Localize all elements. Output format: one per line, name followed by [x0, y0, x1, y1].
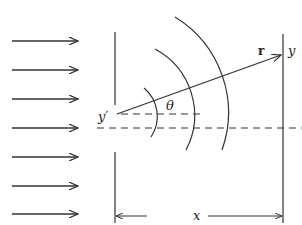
distance-x-label: x: [193, 208, 201, 223]
wavefront-arcs: [144, 17, 228, 150]
wavefront-arc: [144, 88, 157, 137]
observation-point-label: y: [287, 43, 296, 58]
incident-wave-arrows: [12, 41, 78, 214]
position-vector-r: [117, 55, 281, 114]
source-point-label: y′: [97, 109, 108, 124]
wavefront-arc: [155, 49, 195, 150]
vector-r-label: r: [258, 44, 265, 58]
diffraction-diagram: y′ y r θ x: [0, 0, 302, 225]
angle-theta-label: θ: [166, 98, 174, 113]
